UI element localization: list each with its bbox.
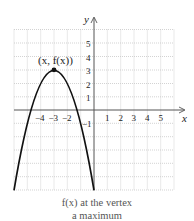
y-axis-label: y	[83, 13, 89, 25]
caption: f(x) at the vertex a maximum	[0, 196, 194, 221]
y-tick-neg1: −1	[82, 119, 92, 129]
vertex-label: (x, f(x))	[38, 54, 73, 67]
x-axis-label: x	[181, 112, 187, 124]
x-tick-4: 4	[145, 113, 150, 123]
y-tick-1: 1	[86, 93, 91, 103]
x-tick-5: 5	[159, 113, 164, 123]
y-tick-4: 4	[86, 53, 91, 63]
y-tick-3: 3	[86, 66, 91, 76]
y-tick-2: 2	[86, 80, 91, 90]
x-tick-1: 1	[105, 113, 110, 123]
x-tick-3: 3	[132, 113, 137, 123]
y-tick-5: 5	[86, 39, 91, 49]
caption-line-2: a maximum	[0, 209, 194, 221]
x-tick-neg4: −4	[35, 113, 45, 123]
x-tick-neg3: −3	[49, 113, 59, 123]
caption-line-1: f(x) at the vertex	[0, 196, 194, 209]
x-tick-neg2: −2	[62, 113, 72, 123]
parabola-graph: x y −4 −3 −2 1 2 3 4 5 5 4 3 2 1 −1 (x, …	[0, 0, 194, 221]
vertex-point	[52, 67, 57, 72]
x-tick-2: 2	[119, 113, 124, 123]
